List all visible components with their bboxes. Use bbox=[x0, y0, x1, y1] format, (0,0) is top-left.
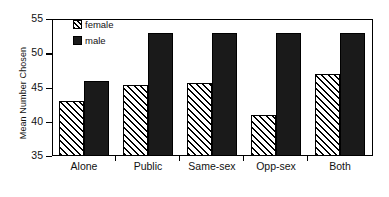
legend-item-male: male bbox=[73, 35, 114, 46]
bar-female-same-sex bbox=[187, 83, 212, 156]
x-tick-label-opp-sex: Opp-sex bbox=[244, 160, 308, 172]
legend-label-female: female bbox=[85, 19, 114, 30]
bar-group-opp-sex bbox=[244, 19, 308, 156]
x-tick-label-public: Public bbox=[116, 160, 180, 172]
legend-item-female: female bbox=[73, 19, 114, 30]
bar-chart: Mean Number Chosen 3540455055 AlonePubli… bbox=[0, 0, 389, 197]
y-tick-label: 50 bbox=[3, 46, 43, 58]
bar-female-public bbox=[123, 85, 148, 156]
bar-male-public bbox=[148, 33, 173, 156]
legend-swatch-male-icon bbox=[73, 36, 82, 45]
legend-swatch-female-icon bbox=[73, 20, 82, 29]
y-axis-title: Mean Number Chosen bbox=[18, 18, 28, 168]
y-tick-mark bbox=[46, 156, 52, 157]
y-tick-label: 40 bbox=[3, 115, 43, 127]
y-tick-label: 55 bbox=[3, 12, 43, 24]
bar-male-both bbox=[340, 33, 365, 156]
x-axis-ticks: AlonePublicSame-sexOpp-sexBoth bbox=[52, 160, 372, 172]
y-tick-label: 35 bbox=[3, 149, 43, 161]
bar-female-both bbox=[315, 74, 340, 156]
bar-female-opp-sex bbox=[251, 115, 276, 156]
bar-group-both bbox=[308, 19, 372, 156]
bar-group-same-sex bbox=[180, 19, 244, 156]
legend: female male bbox=[73, 19, 114, 51]
bar-male-opp-sex bbox=[276, 33, 301, 156]
y-tick-label: 45 bbox=[3, 81, 43, 93]
bar-female-alone bbox=[59, 101, 84, 156]
bar-group-public bbox=[116, 19, 180, 156]
legend-label-male: male bbox=[85, 35, 106, 46]
bar-male-same-sex bbox=[212, 33, 237, 156]
x-tick-label-same-sex: Same-sex bbox=[180, 160, 244, 172]
x-tick-label-alone: Alone bbox=[52, 160, 116, 172]
bar-male-alone bbox=[84, 81, 109, 156]
x-tick-label-both: Both bbox=[308, 160, 372, 172]
